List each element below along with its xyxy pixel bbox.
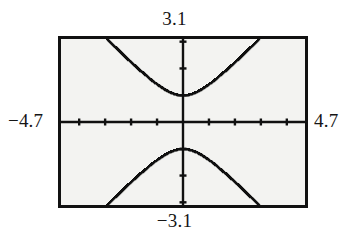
y-max-label: 3.1	[0, 9, 349, 28]
x-max-label: 4.7	[314, 111, 338, 130]
hyperbola-plot	[61, 39, 305, 205]
calculator-viewport-frame	[58, 36, 308, 208]
x-min-label: −4.7	[8, 111, 43, 130]
plot-area	[61, 39, 305, 205]
y-min-label: −3.1	[0, 211, 349, 230]
calculator-screenshot: 3.1 −4.7 4.7 −3.1	[0, 0, 349, 237]
